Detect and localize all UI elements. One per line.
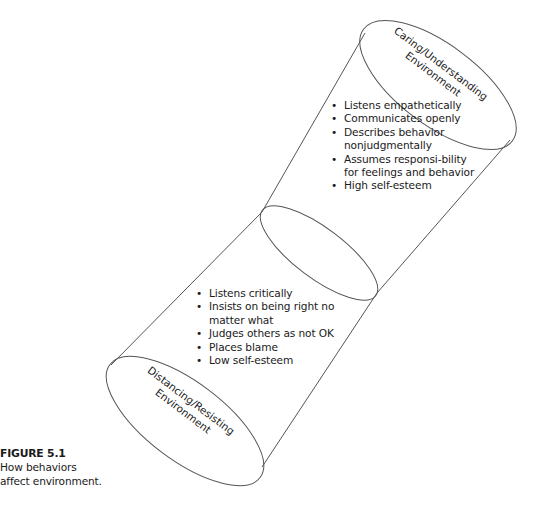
top-behavior-item: High self-esteem <box>330 179 480 192</box>
figure-number: FIGURE 5.1 <box>0 447 120 461</box>
bottom-behavior-item: Places blame <box>195 341 345 354</box>
bottom-behavior-item: Low self-esteem <box>195 354 345 367</box>
top-behavior-item: Describes behavior nonjudgmentally <box>330 126 480 153</box>
bottom-behaviors-list: Listens critically Insists on being righ… <box>195 287 345 367</box>
top-behavior-item: Communicates openly <box>330 112 480 125</box>
bottom-behavior-item: Listens critically <box>195 287 345 300</box>
top-behaviors-list: Listens empathetically Communicates open… <box>330 99 480 193</box>
bottom-behavior-item: Insists on being right no matter what <box>195 300 345 327</box>
figure-caption: FIGURE 5.1 How behaviors affect environm… <box>0 447 120 488</box>
bottom-behavior-item: Judges others as not OK <box>195 327 345 340</box>
caption-line-1: How behaviors <box>0 461 120 475</box>
caption-line-2: affect environment. <box>0 475 120 489</box>
top-behavior-item: Assumes responsi-bility for feelings and… <box>330 153 480 180</box>
top-behavior-item: Listens empathetically <box>330 99 480 112</box>
